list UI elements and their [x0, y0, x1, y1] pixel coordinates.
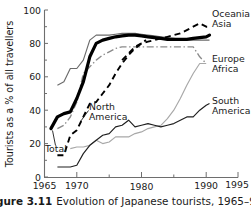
series-label-total: Total: [44, 143, 67, 154]
series-line-south-america: [57, 104, 209, 167]
y-axis-label: Tourists as a % of all travellers: [4, 21, 15, 169]
series-line-oceania: [122, 23, 209, 60]
series-label-asia: Asia: [212, 18, 231, 29]
y-tick-label-80: 80: [29, 38, 41, 49]
y-tick-label-100: 100: [23, 5, 41, 16]
figure-caption: Figure 3.11 Evolution of Japanese touris…: [0, 191, 251, 210]
x-tick-label-1995: 1995: [225, 179, 249, 190]
series-line-north-america: [57, 40, 146, 155]
figure-caption-number: Figure 3.11: [0, 195, 52, 207]
y-tick-label-60: 60: [29, 71, 41, 82]
line-chart: Tourists as a % of all travellers 100 80…: [0, 0, 251, 192]
series-label-south-america-2: America: [212, 105, 250, 116]
x-tick-label-1965: 1965: [33, 180, 57, 191]
series-line-asia: [57, 33, 209, 85]
north-america-leader-line: [81, 111, 89, 122]
y-tick-label-20: 20: [29, 138, 41, 149]
x-tick-label-1970: 1970: [65, 180, 89, 191]
series-label-africa: Africa: [212, 63, 239, 74]
y-tick-label-40: 40: [29, 105, 41, 116]
series-line-total: [51, 35, 210, 129]
x-tick-label-1990: 1990: [194, 180, 218, 191]
series-label-north: NorthAmerica: [89, 101, 127, 122]
figure-container: Tourists as a % of all travellers 100 80…: [0, 0, 251, 210]
figure-caption-text: Evolution of Japanese tourists, 1965–91.: [56, 195, 251, 207]
